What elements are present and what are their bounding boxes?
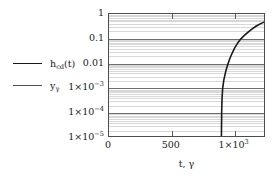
y-tick-mantissa: 1×10 [68,106,94,117]
legend-label-ygamma-sub: γ [55,85,59,93]
y-axis-tick-label: 1×10−4 [68,107,104,118]
plot-area [108,13,265,137]
legend-label-hcd: hcd(t) [50,54,75,75]
x-axis-tick-label: 0 [78,139,138,150]
y-axis-tick-label: 0.1 [89,33,104,43]
legend-label-ygamma: yγ [50,76,59,97]
legend-swatch-hcd [13,63,42,64]
x-axis-tick-label: 500 [141,139,201,150]
y-axis-tick-label: 1×10−3 [68,82,104,93]
y-axis-tick-label: 0.01 [83,58,104,68]
x-axis-label: t, γ [108,158,265,169]
x-axis-tick-label: 1×103 [204,139,264,152]
x-tick-mantissa: 1×10 [218,139,244,150]
y-tick-mantissa: 1×10 [68,81,94,92]
x-tick-exponent: 3 [245,138,249,146]
y-tick-exponent: −4 [94,105,104,113]
series-line-hcd [221,21,265,137]
y-tick-exponent: −3 [94,80,104,88]
legend-swatch-ygamma [13,85,42,86]
series-curve-layer [109,14,265,137]
legend-label-hcd-tail: (t) [64,58,75,69]
legend-label-hcd-sub: cd [56,63,64,71]
chart-figure: hcd(t) yγ 10.10.011×10−31×10−41×10−5 050… [0,0,276,177]
y-axis-tick-label: 1 [98,8,104,18]
y-tick-exponent: −5 [94,130,104,138]
